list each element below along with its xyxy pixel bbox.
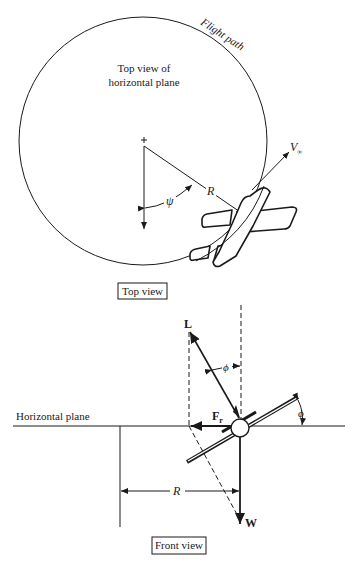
turning-flight-diagram: Flight path Top view of horizontal plane…: [0, 0, 354, 569]
velocity-label: V∞: [290, 140, 302, 156]
psi-label: ψ: [166, 194, 174, 208]
plane-label-line1: Top view of: [118, 62, 171, 74]
airplane-front-view-icon: [187, 397, 298, 462]
lift-vector: [190, 332, 239, 418]
phi-label-right: ϕ: [298, 407, 304, 419]
center-mark-icon: [141, 137, 147, 143]
horizontal-plane-label: Horizontal plane: [16, 410, 90, 422]
front-view-caption: Front view: [155, 539, 203, 551]
radius-label-front: R: [172, 484, 181, 498]
front-view: Horizontal plane L ϕ Fr ϕ: [13, 305, 345, 554]
centripetal-force-label: Fr: [212, 409, 223, 425]
lift-label: L: [184, 317, 192, 331]
weight-label: W: [245, 516, 257, 530]
radius-label-top: R: [206, 184, 215, 198]
top-view-caption: Top view: [122, 285, 163, 297]
plane-label-line2: horizontal plane: [108, 76, 179, 88]
airplane-top-view-icon: [190, 188, 297, 267]
radius-line: [144, 146, 243, 214]
top-view: Flight path Top view of horizontal plane…: [19, 15, 302, 299]
velocity-vector: [252, 152, 289, 190]
phi-label-top: ϕ: [223, 361, 229, 373]
dashed-diagonal: [189, 426, 240, 520]
